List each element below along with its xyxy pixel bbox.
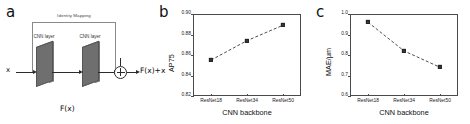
y-tick-label: 0.90 xyxy=(169,11,191,16)
identity-mapping-label: Identity Mapping xyxy=(34,13,114,18)
x-axis-title-c: CNN backbone xyxy=(350,108,458,117)
chart-ap75: 0.820.840.860.880.90 ResNet18ResNet34Res… xyxy=(155,0,312,124)
figure-container: a Identity Mapping CNN layer CNN layer xyxy=(0,0,470,124)
slab-front-face xyxy=(36,41,53,87)
arrow-layer2-to-sum xyxy=(98,72,115,73)
y-tick-label: 1.0 xyxy=(326,11,348,16)
panel-c-mae-chart: c 0.60.70.80.91.0 ResNet18ResNet34ResNet… xyxy=(312,0,470,124)
y-tick-mark xyxy=(191,96,194,97)
data-point-marker xyxy=(438,65,442,69)
y-tick-label: 0.82 xyxy=(169,93,191,98)
x-tick-label: ResNet50 xyxy=(261,99,305,104)
arrow-layer1-to-layer2 xyxy=(52,72,80,73)
identity-skip-into-sum xyxy=(120,58,121,66)
data-point-marker xyxy=(402,49,406,53)
data-point-marker xyxy=(366,20,370,24)
slab-front-face xyxy=(82,41,99,87)
residual-block-diagram: Identity Mapping CNN layer CNN layer x xyxy=(0,0,155,124)
x-axis-title-b: CNN backbone xyxy=(193,108,301,117)
cnn-layer-2-label: CNN layer xyxy=(72,34,108,39)
input-label: x xyxy=(6,66,10,74)
data-point-marker xyxy=(281,23,285,27)
y-axis-title-b: AP75 xyxy=(167,54,176,72)
y-tick-label: 0.84 xyxy=(169,73,191,78)
y-tick-label: 0.88 xyxy=(169,32,191,37)
series-line-c xyxy=(350,14,458,96)
x-tick-label: ResNet50 xyxy=(418,99,462,104)
panel-b-ap75-chart: b 0.820.840.860.880.90 ResNet18ResNet34R… xyxy=(155,0,312,124)
circle-plus-icon xyxy=(114,66,127,79)
y-axis-title-c: MAE/μm xyxy=(324,48,333,76)
data-point-marker xyxy=(209,58,213,62)
arrow-input-to-layer1 xyxy=(16,72,34,73)
arrow-head-icon xyxy=(79,70,83,74)
residual-function-label: F(x) xyxy=(60,104,75,113)
y-tick-label: 0.9 xyxy=(326,32,348,37)
cnn-layer-1-label: CNN layer xyxy=(26,34,62,39)
data-point-marker xyxy=(245,39,249,43)
y-tick-label: 0.6 xyxy=(326,93,348,98)
chart-mae: 0.60.70.80.91.0 ResNet18ResNet34ResNet50… xyxy=(312,0,470,124)
panel-a-residual-block: a Identity Mapping CNN layer CNN layer xyxy=(0,0,155,124)
arrow-head-icon xyxy=(33,70,37,74)
y-tick-mark xyxy=(348,96,351,97)
